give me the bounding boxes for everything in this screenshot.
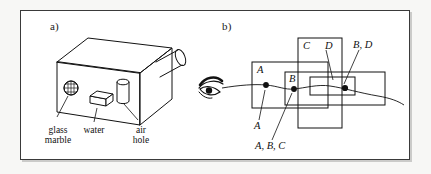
ray-point-A (263, 82, 269, 88)
ray-point-BD (342, 85, 348, 91)
bbox-C (298, 38, 342, 128)
bbox-label-C: C (303, 40, 310, 51)
leader-point-BD (344, 50, 359, 84)
leader-point-A (259, 90, 265, 120)
figure-root: a) b) (0, 0, 431, 174)
point-label-A: A (254, 120, 260, 131)
panel-b-drawing (0, 0, 431, 174)
bbox-label-A: A (257, 64, 263, 75)
point-label-ABC: A, B, C (255, 140, 285, 151)
point-label-BD: B, D (353, 39, 372, 50)
bbox-label-B: B (289, 73, 295, 84)
leader-point-ABC (272, 93, 292, 140)
bbox-label-D: D (325, 40, 333, 51)
eye-icon (199, 78, 223, 99)
ray-point-ABC (291, 86, 297, 92)
leader-label-D (326, 50, 333, 80)
